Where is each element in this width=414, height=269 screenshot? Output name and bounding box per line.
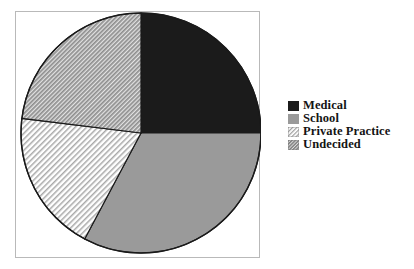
pie-slice-undecided [22,13,141,133]
solid-black-swatch-icon [288,101,299,111]
legend-label-undecided: Undecided [303,138,361,151]
pie-svg [15,11,261,259]
solid-gray-swatch-icon [288,114,299,124]
pie-slice-medical [141,13,261,133]
pie-chart-figure: Medical School Private Practice [0,0,414,269]
chart-legend: Medical School Private Practice [288,99,412,151]
pie-graphic [15,11,261,259]
light-hatch-swatch-icon [288,127,299,137]
dense-hatch-swatch-icon [288,140,299,150]
legend-item-undecided: Undecided [288,138,412,151]
